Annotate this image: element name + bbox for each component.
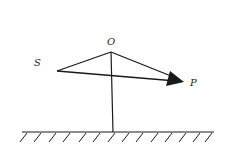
segment-o-s (57, 52, 111, 71)
segment-o-p (111, 52, 176, 78)
label-s: S (34, 57, 41, 68)
vertical-o-ground (111, 52, 113, 132)
ground-hatching (20, 133, 212, 142)
label-p: P (189, 77, 197, 88)
segment-s-p (57, 71, 176, 81)
label-o: O (107, 36, 115, 47)
arrowhead-icon (166, 71, 184, 86)
diagram-canvas: O S P (0, 0, 229, 161)
